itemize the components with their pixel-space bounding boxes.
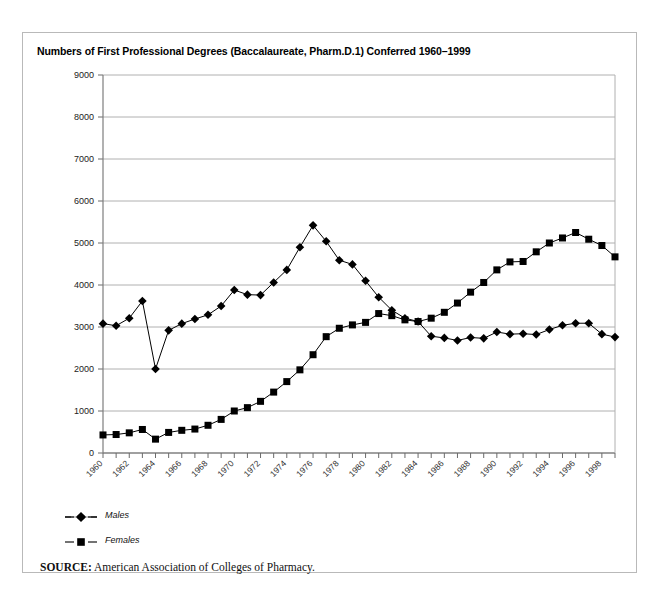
data-point-males (493, 328, 502, 337)
x-axis-tick-label: 1962 (110, 458, 131, 479)
data-point-females (283, 378, 290, 385)
y-axis-tick-label: 0 (89, 448, 94, 458)
data-point-females (100, 431, 107, 438)
data-point-females (218, 416, 225, 423)
data-point-females (533, 248, 540, 255)
data-point-males (440, 334, 449, 343)
y-axis-tick-label: 4000 (74, 280, 94, 290)
x-axis-tick-label: 1998 (583, 458, 604, 479)
chart-plot-area: 0100020003000400050006000700080009000196… (23, 33, 638, 574)
data-point-females (191, 426, 198, 433)
x-axis-tick-label: 1972 (242, 458, 263, 479)
data-point-females (296, 366, 303, 373)
x-axis-tick-label: 1964 (136, 458, 157, 479)
data-point-males (138, 297, 147, 306)
x-axis-tick-label: 1974 (268, 458, 289, 479)
data-point-males (558, 321, 567, 330)
legend-label-females: Females (105, 535, 140, 545)
data-point-males (112, 321, 121, 330)
data-point-females (113, 431, 120, 438)
data-point-males (506, 330, 515, 339)
data-point-males (532, 330, 541, 339)
data-point-females (441, 309, 448, 316)
data-point-females (585, 236, 592, 243)
y-axis-tick-label: 8000 (74, 112, 94, 122)
y-axis-tick-label: 1000 (74, 406, 94, 416)
x-axis-tick-label: 1992 (504, 458, 525, 479)
legend-marker-square-icon (63, 536, 99, 548)
data-point-females (559, 234, 566, 241)
x-axis-tick-label: 1978 (320, 458, 341, 479)
data-point-males (204, 311, 213, 320)
x-axis-tick-label: 1984 (399, 458, 420, 479)
x-axis-tick-label: 1982 (373, 458, 394, 479)
y-axis-tick-label: 3000 (74, 322, 94, 332)
source-text: American Association of Colleges of Phar… (92, 561, 315, 573)
data-point-males (151, 365, 160, 374)
data-point-females (428, 315, 435, 322)
data-point-females (310, 351, 317, 358)
x-axis-tick-label: 1996 (557, 458, 578, 479)
data-point-females (270, 389, 277, 396)
data-point-females (139, 426, 146, 433)
data-point-females (375, 310, 382, 317)
source-label: SOURCE: (40, 561, 92, 573)
data-point-females (152, 436, 159, 443)
source-note: SOURCE: American Association of Colleges… (40, 561, 315, 573)
x-axis-tick-label: 1966 (163, 458, 184, 479)
data-point-males (453, 336, 462, 345)
data-point-females (572, 229, 579, 236)
legend-label-males: Males (105, 510, 129, 520)
data-point-females (520, 258, 527, 265)
data-point-females (506, 258, 513, 265)
data-point-females (257, 398, 264, 405)
data-point-females (178, 427, 185, 434)
data-point-females (231, 408, 238, 415)
x-axis-tick-label: 1988 (452, 458, 473, 479)
figure-frame: Numbers of First Professional Degrees (B… (22, 32, 637, 573)
data-point-females (349, 321, 356, 328)
data-point-females (598, 242, 605, 249)
data-point-males (243, 290, 252, 299)
data-point-males (466, 333, 475, 342)
y-axis-tick-label: 5000 (74, 238, 94, 248)
x-axis-tick-label: 1994 (530, 458, 551, 479)
data-point-females (205, 422, 212, 429)
data-point-females (323, 333, 330, 340)
data-point-females (546, 240, 553, 247)
data-point-females (454, 300, 461, 307)
data-point-females (415, 318, 422, 325)
x-axis-tick-label: 1970 (215, 458, 236, 479)
y-axis-tick-label: 7000 (74, 154, 94, 164)
data-point-males (519, 329, 528, 338)
x-axis-tick-label: 1980 (347, 458, 368, 479)
data-point-females (480, 279, 487, 286)
data-point-males (296, 243, 305, 252)
data-point-females (244, 404, 251, 411)
x-axis-tick-label: 1976 (294, 458, 315, 479)
line-chart-svg: 0100020003000400050006000700080009000196… (23, 33, 638, 574)
data-point-females (336, 325, 343, 332)
data-point-males (479, 334, 488, 343)
data-point-females (126, 429, 133, 436)
y-axis-tick-label: 2000 (74, 364, 94, 374)
legend-marker-diamond-icon (63, 511, 99, 523)
data-point-females (493, 266, 500, 273)
data-point-males (571, 319, 580, 328)
data-point-females (612, 253, 619, 260)
data-point-males (611, 333, 620, 342)
x-axis-tick-label: 1990 (478, 458, 499, 479)
data-point-males (125, 314, 134, 323)
series-line-males (103, 225, 615, 369)
y-axis-tick-label: 9000 (74, 70, 94, 80)
data-point-females (388, 312, 395, 319)
data-point-males (335, 256, 344, 265)
data-point-males (191, 315, 200, 324)
data-point-females (165, 429, 172, 436)
data-point-females (362, 319, 369, 326)
data-point-females (401, 316, 408, 323)
data-point-females (467, 289, 474, 296)
x-axis-tick-label: 1960 (84, 458, 105, 479)
y-axis-tick-label: 6000 (74, 196, 94, 206)
x-axis-tick-label: 1968 (189, 458, 210, 479)
